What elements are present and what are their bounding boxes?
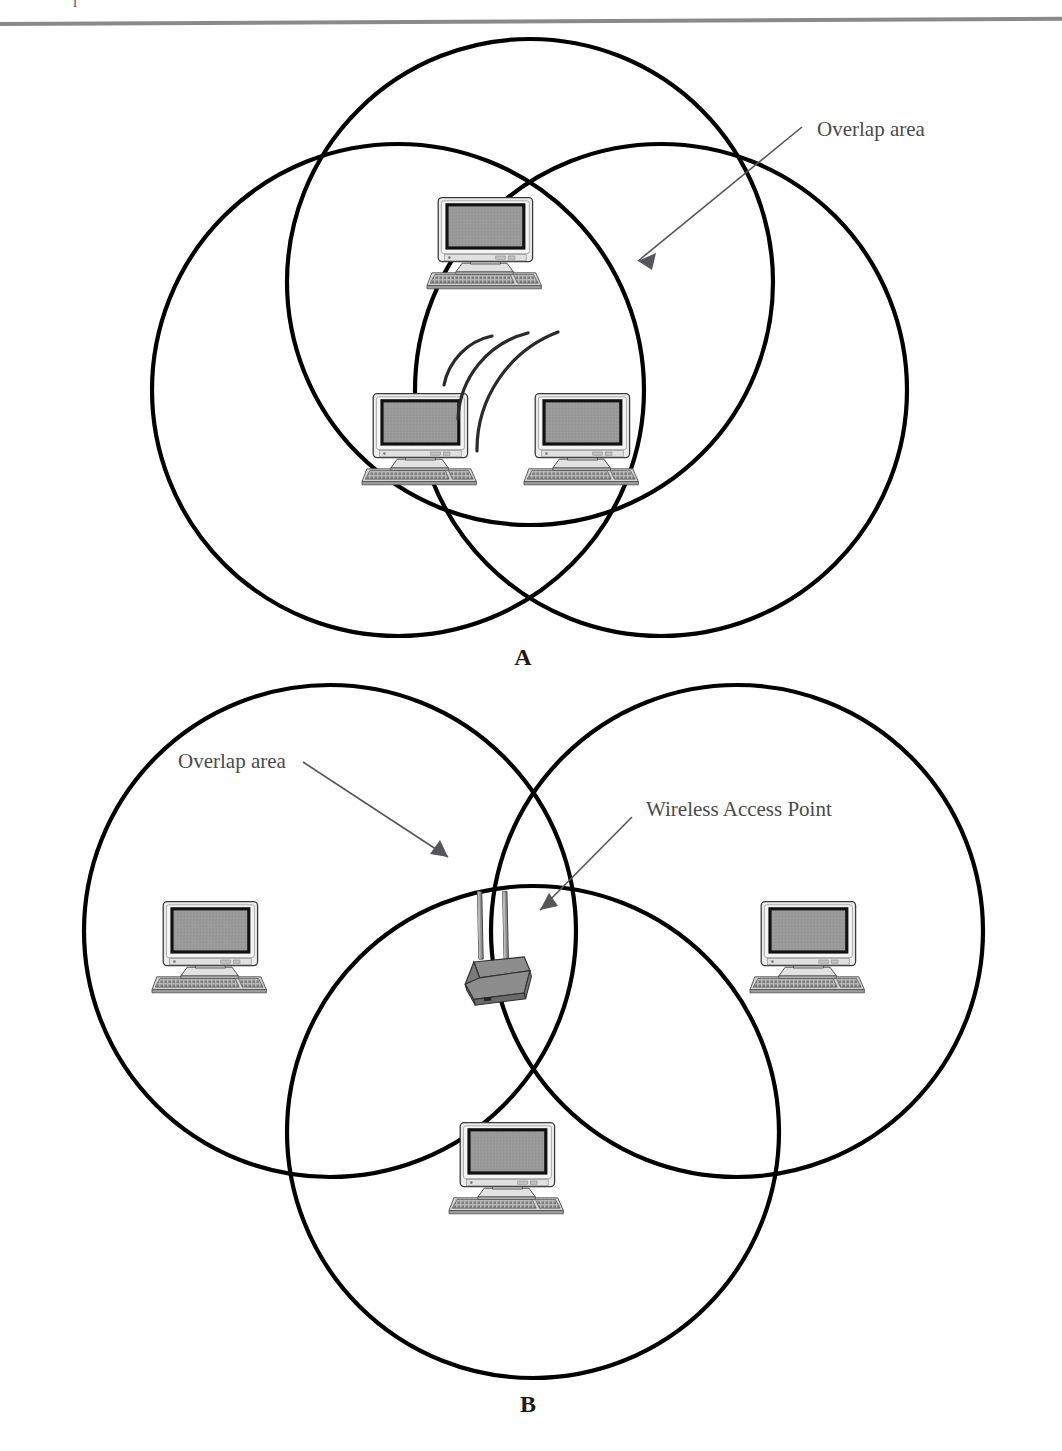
coverage-circle-left: [152, 144, 644, 636]
annotation-overlap-area-b: Overlap area: [178, 749, 448, 857]
overlap-area-arrowhead-b: [430, 840, 448, 857]
panel-label-a: A: [514, 644, 532, 670]
panel-b: Overlap area Wireless Access Point B: [84, 685, 983, 1417]
overlap-area-leader-line-b: [303, 762, 448, 857]
wireless-access-point-label: Wireless Access Point: [646, 797, 832, 821]
computer-bottom-right: [524, 394, 638, 485]
computer-left: [152, 902, 266, 993]
annotation-overlap-area-a: Overlap area: [638, 117, 926, 270]
wireless-access-point-device: [465, 891, 531, 1005]
panel-label-b: B: [520, 1391, 536, 1417]
overlap-area-arrowhead-a: [638, 253, 656, 270]
overlap-area-label-a: Overlap area: [817, 117, 926, 141]
panel-a: Overlap area A: [152, 39, 926, 670]
coverage-circle-top-right: [491, 685, 983, 1177]
computer-bottom: [449, 1123, 563, 1214]
wireless-coverage-figure: Overlap area A: [0, 0, 1062, 1451]
computer-right: [750, 902, 864, 993]
overlap-area-leader-line-a: [638, 127, 802, 261]
overlap-area-label-b: Overlap area: [178, 749, 287, 773]
coverage-circle-top-left: [84, 685, 576, 1177]
figure-page: l: [0, 0, 1062, 1451]
computer-top: [427, 198, 541, 289]
